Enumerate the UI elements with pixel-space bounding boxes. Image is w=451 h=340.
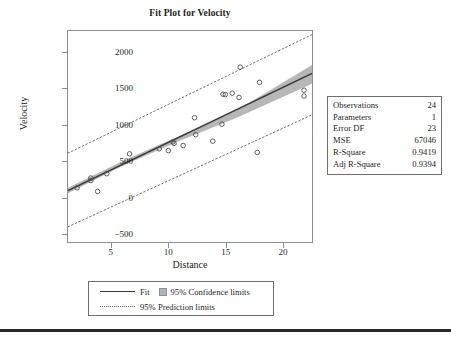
statistics-box: Observations24Parameters1Error DF23MSE67…	[327, 96, 442, 175]
stats-row: R-Square0.9419	[333, 147, 436, 159]
data-point	[302, 94, 307, 99]
data-point	[302, 88, 307, 93]
y-axis-tick-mark	[62, 234, 67, 235]
legend-label-fit: Fit	[140, 287, 150, 297]
x-axis-tick-mark	[226, 243, 227, 248]
y-axis-tick-mark	[62, 161, 67, 162]
legend-row-fit: Fit 95% Confidence limits	[89, 284, 286, 299]
stats-value: 67046	[402, 135, 436, 147]
legend-label-confidence: 95% Confidence limits	[171, 287, 250, 297]
x-axis-tick-label: 10	[148, 247, 188, 257]
data-point	[192, 115, 197, 120]
stats-value: 0.9394	[402, 159, 436, 171]
stats-row: Error DF23	[333, 123, 436, 135]
data-point	[237, 95, 242, 100]
data-point	[211, 139, 216, 144]
stats-label: Observations	[333, 100, 402, 112]
data-point	[181, 143, 186, 148]
stats-row: Adj R-Square0.9394	[333, 159, 436, 171]
x-axis-tick-label: 15	[206, 247, 246, 257]
x-axis-tick-label: 5	[91, 247, 131, 257]
fit-plot-figure: Fit Plot for Velocity 2000150010005000−5…	[0, 0, 451, 340]
statistics-table: Observations24Parameters1Error DF23MSE67…	[333, 100, 436, 170]
y-axis-tick-label: 1000	[73, 120, 133, 130]
y-axis-tick-label: 1500	[73, 83, 133, 93]
y-axis-tick-label: 500	[73, 156, 133, 166]
y-axis-tick-label: 0	[73, 193, 133, 203]
x-axis-tick-mark	[111, 243, 112, 248]
stats-label: Parameters	[333, 112, 402, 124]
page-title: Fit Plot for Velocity	[67, 8, 313, 18]
y-axis-tick-mark	[62, 52, 67, 53]
data-point	[238, 65, 243, 70]
x-axis-tick-mark	[283, 243, 284, 248]
stats-value: 24	[402, 100, 436, 112]
y-axis-tick-mark	[62, 88, 67, 89]
legend-row-prediction: 95% Prediction limits	[89, 299, 286, 314]
y-axis-tick-mark	[62, 198, 67, 199]
y-axis-label: Velocity	[18, 69, 29, 159]
x-axis-tick-mark	[168, 243, 169, 248]
plot-area	[67, 30, 313, 243]
y-axis-tick-label: 2000	[73, 47, 133, 57]
stats-row: Observations24	[333, 100, 436, 112]
prediction-line-icon	[100, 306, 135, 307]
stats-label: Adj R-Square	[333, 159, 402, 171]
stats-label: R-Square	[333, 147, 402, 159]
stats-row: Parameters1	[333, 112, 436, 124]
stats-label: Error DF	[333, 123, 402, 135]
stats-row: MSE67046	[333, 135, 436, 147]
chart-legend: Fit 95% Confidence limits 95% Prediction…	[88, 281, 274, 316]
y-axis-tick-label: −500	[73, 229, 133, 239]
x-axis-tick-label: 20	[263, 247, 303, 257]
data-point	[166, 148, 171, 153]
data-point	[230, 91, 235, 96]
confidence-band-icon	[159, 288, 167, 296]
data-point	[257, 80, 262, 85]
y-axis-tick-mark	[62, 125, 67, 126]
stats-value: 23	[402, 123, 436, 135]
plot-canvas	[68, 31, 312, 242]
x-axis-label: Distance	[67, 259, 313, 270]
stats-value: 1	[402, 112, 436, 124]
stats-label: MSE	[333, 135, 402, 147]
legend-label-prediction: 95% Prediction limits	[140, 302, 215, 312]
footer-rule	[0, 329, 451, 332]
stats-value: 0.9419	[402, 147, 436, 159]
data-point	[255, 150, 260, 155]
fit-line-icon	[100, 291, 135, 292]
